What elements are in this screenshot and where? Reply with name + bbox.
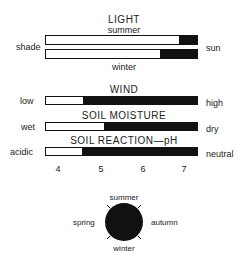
season-tick-marks-icon: [0, 0, 248, 265]
